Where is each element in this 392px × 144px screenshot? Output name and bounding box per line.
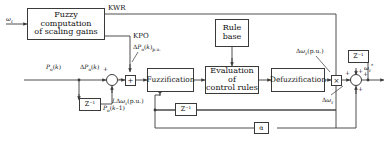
label-leader-lines (0, 0, 392, 144)
block-diagram-canvas: Fuzzy computation of scaling gains Rule … (0, 0, 392, 144)
